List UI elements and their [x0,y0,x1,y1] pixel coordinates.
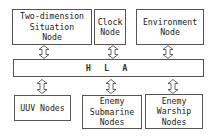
bidirectional-arrow-icon [107,45,119,59]
node-label-line: Two-dimension [20,11,84,22]
node-label-line: Node [100,27,120,38]
bidirectional-arrow-icon [105,79,117,94]
enemy-submarine-nodes: Enemy Submarine Nodes [82,95,142,129]
node-label-line: Enemy [162,96,187,107]
enemy-warship-nodes: Enemy Warship Nodes [145,94,203,129]
node-label-line: Node [160,27,180,38]
node-label-line: Clock [98,17,123,28]
uuv-nodes: UUV Nodes [14,95,71,121]
node-label-line: UUV Nodes [20,103,64,114]
node-label-line: Environment [143,17,197,28]
clock-node: Clock Node [94,9,126,45]
node-label-line: Situation [30,22,74,33]
bidirectional-arrow-icon [167,79,179,94]
hla-label: H L A [86,63,132,73]
bidirectional-arrow-icon [38,45,50,59]
node-label-line: Node [42,32,62,43]
environment-node: Environment Node [136,9,204,45]
bidirectional-arrow-icon [36,79,48,94]
two-dimension-situation-node: Two-dimension Situation Node [12,9,92,45]
node-label-line: Enemy [100,96,125,107]
node-label-line: Submarine [90,107,134,118]
node-label-line: Nodes [162,117,187,128]
bidirectional-arrow-icon [162,45,174,59]
node-label-line: Nodes [100,117,125,128]
hla-bus: H L A [13,59,204,77]
node-label-line: Warship [157,106,192,117]
